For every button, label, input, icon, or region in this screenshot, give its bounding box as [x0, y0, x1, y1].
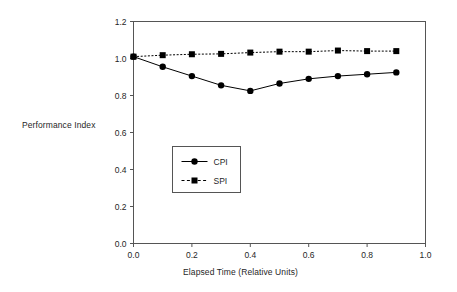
x-axis-ticks: 0.00.20.40.60.81.0 [128, 244, 432, 260]
data-point-cpi [364, 71, 370, 77]
data-point-spi [364, 48, 370, 54]
legend-marker-cpi [191, 158, 197, 164]
y-tick-label: 0.4 [115, 165, 127, 175]
data-point-spi [306, 49, 312, 55]
legend-marker-spi [192, 178, 198, 184]
data-point-spi [393, 48, 399, 54]
legend-label-spi: SPI [214, 176, 228, 186]
y-tick-label: 0.8 [115, 91, 127, 101]
data-point-cpi [189, 73, 195, 79]
data-point-cpi [276, 80, 282, 86]
legend-label-cpi: CPI [214, 157, 228, 167]
x-tick-label: 1.0 [420, 250, 432, 260]
x-tick-label: 0.2 [186, 250, 198, 260]
x-tick-label: 0.0 [128, 250, 140, 260]
data-point-spi [247, 50, 253, 56]
data-point-spi [189, 51, 195, 57]
data-point-cpi [306, 76, 312, 82]
y-tick-label: 0.0 [115, 239, 127, 249]
data-point-cpi [160, 64, 166, 70]
plot-svg: 0.00.20.40.60.81.01.2 0.00.20.40.60.81.0… [0, 0, 457, 292]
data-series-layer [130, 48, 399, 95]
y-tick-label: 1.0 [115, 54, 127, 64]
y-axis-ticks: 0.00.20.40.60.81.01.2 [115, 17, 134, 249]
data-point-spi [218, 51, 224, 57]
data-point-spi [277, 49, 283, 55]
y-tick-label: 1.2 [115, 17, 127, 27]
legend-box: CPISPI [173, 147, 241, 193]
data-point-spi [160, 52, 166, 58]
data-point-cpi [218, 82, 224, 88]
data-point-cpi [247, 88, 253, 94]
data-point-cpi [393, 69, 399, 75]
x-tick-label: 0.8 [361, 250, 373, 260]
data-point-spi [335, 48, 341, 54]
y-tick-label: 0.6 [115, 128, 127, 138]
series-line-cpi [134, 57, 397, 91]
data-point-spi [131, 54, 137, 60]
data-point-cpi [335, 73, 341, 79]
x-tick-label: 0.6 [303, 250, 315, 260]
chart-container: Performance Index Elapsed Time (Relative… [0, 0, 457, 292]
series-line-spi [134, 51, 397, 57]
y-tick-label: 0.2 [115, 202, 127, 212]
x-tick-label: 0.4 [244, 250, 256, 260]
